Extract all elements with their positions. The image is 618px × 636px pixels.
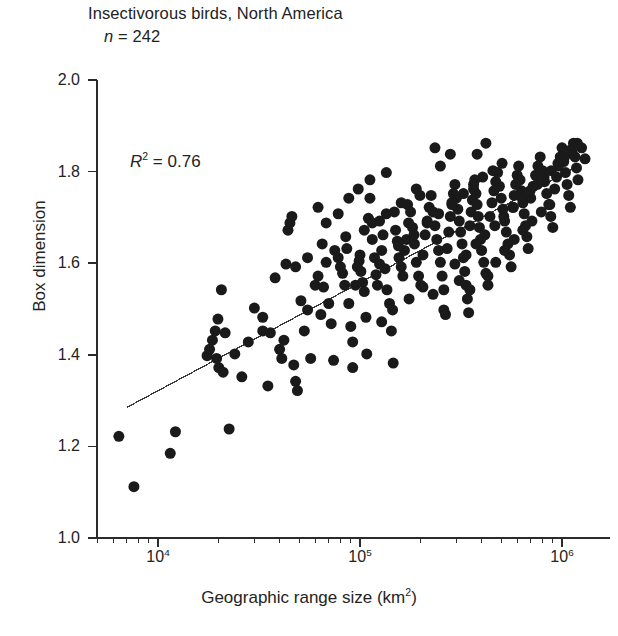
scatter-point (545, 211, 556, 222)
scatter-point (536, 206, 547, 217)
scatter-point (417, 249, 428, 260)
scatter-point (461, 249, 472, 260)
scatter-point (571, 162, 582, 173)
scatter-point (397, 271, 408, 282)
x-tick-label: 106 (532, 548, 592, 566)
scatter-point (236, 371, 247, 382)
scatter-point (339, 280, 350, 291)
scatter-point (360, 312, 371, 323)
scatter-point (355, 249, 366, 260)
scatter-point (437, 271, 448, 282)
scatter-point (340, 231, 351, 242)
scatter-point (457, 238, 468, 249)
scatter-point (515, 174, 526, 185)
scatter-point (438, 284, 449, 295)
scatter-point (302, 252, 313, 263)
scatter-point (562, 179, 573, 190)
x-tick-exponent: 4 (164, 547, 170, 558)
scatter-point (229, 348, 240, 359)
scatter-point (499, 245, 510, 256)
scatter-point (396, 261, 407, 272)
scatter-point (544, 199, 555, 210)
scatter-point (361, 348, 372, 359)
scatter-point (305, 353, 316, 364)
scatter-point (463, 307, 474, 318)
scatter-point (523, 243, 534, 254)
scatter-point (446, 197, 457, 208)
scatter-point (278, 335, 289, 346)
scatter-point (508, 202, 519, 213)
scatter-point (572, 174, 583, 185)
scatter-point (317, 238, 328, 249)
scatter-point (470, 238, 481, 249)
scatter-point (472, 199, 483, 210)
scatter-point (299, 325, 310, 336)
scatter-point (389, 206, 400, 217)
scatter-point (535, 151, 546, 162)
scatter-point (404, 293, 415, 304)
scatter-point (329, 245, 340, 256)
scatter-point (517, 225, 528, 236)
scatter-point (487, 165, 498, 176)
y-tick-label: 1.0 (36, 529, 80, 547)
scatter-point (470, 188, 481, 199)
scatter-point (477, 172, 488, 183)
scatter-point (422, 217, 433, 228)
scatter-point (464, 220, 475, 231)
scatter-point (347, 362, 358, 373)
scatter-point (420, 229, 431, 240)
scatter-point (128, 481, 139, 492)
y-tick-label: 1.8 (36, 163, 80, 181)
scatter-point (280, 259, 291, 270)
scatter-point (464, 284, 475, 295)
scatter-point (560, 167, 571, 178)
scatter-point (435, 257, 446, 268)
scatter-point (367, 234, 378, 245)
scatter-point (345, 321, 356, 332)
scatter-point (435, 161, 446, 172)
scatter-point (526, 216, 537, 227)
scatter-point (333, 208, 344, 219)
scatter-point (359, 286, 370, 297)
scatter-point (473, 211, 484, 222)
scatter-point (414, 190, 425, 201)
scatter-point (376, 245, 387, 256)
scatter-point (315, 309, 326, 320)
x-tick-exponent: 5 (366, 547, 372, 558)
scatter-point (302, 304, 313, 315)
scatter-point (445, 149, 456, 160)
scatter-point (355, 266, 366, 277)
scatter-point (498, 211, 509, 222)
scatter-point (426, 190, 437, 201)
scatter-point (449, 179, 460, 190)
scatter-point (364, 174, 375, 185)
scatter-point (381, 167, 392, 178)
scatter-point (288, 359, 299, 370)
scatter-point (408, 229, 419, 240)
scatter-point (220, 327, 231, 338)
scatter-point (378, 229, 389, 240)
scatter-point (428, 289, 439, 300)
scatter-point (380, 263, 391, 274)
scatter-point (353, 184, 364, 195)
x-tick-label: 105 (330, 548, 390, 566)
scatter-point (347, 336, 358, 347)
scatter-point (276, 353, 287, 364)
scatter-point (549, 184, 560, 195)
scatter-point (370, 269, 381, 280)
scatter-point (442, 243, 453, 254)
scatter-point (513, 161, 524, 172)
scatter-point (216, 284, 227, 295)
scatter-point (337, 268, 348, 279)
scatter-point (455, 227, 466, 238)
scatter-point (372, 280, 383, 291)
scatter-point (468, 179, 479, 190)
scatter-point (290, 261, 301, 272)
scatter-point (313, 202, 324, 213)
scatter-point (472, 149, 483, 160)
scatter-point (454, 216, 465, 227)
scatter-point (580, 153, 591, 164)
scatter-point (376, 316, 387, 327)
scatter-point (218, 367, 229, 378)
scatter-point (270, 272, 281, 283)
